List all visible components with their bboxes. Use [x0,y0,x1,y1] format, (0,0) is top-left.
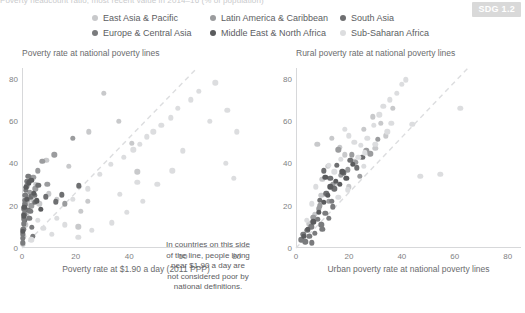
y-tick-label: 0 [288,244,292,253]
panel-right-title: Rural poverty rate at national poverty l… [296,48,455,58]
legend-item-lac[interactable]: Latin America & Caribbean [210,10,340,25]
legend-item-sa[interactable]: South Asia [340,10,460,25]
y-tick-label: 40 [9,159,18,168]
y-tick-label: 0 [14,244,18,253]
panel-left-title: Poverty rate at national poverty lines [22,48,160,58]
legend-marker-mena-icon [210,30,216,36]
identity-reference-line-right [296,68,521,248]
panel-left: Poverty rate at national poverty lines P… [0,48,270,303]
legend-item-eca[interactable]: Europe & Central Asia [92,25,210,40]
legend-item-mena[interactable]: Middle East & North Africa [210,25,340,40]
y-tick-label: 60 [9,116,18,125]
x-tick-label: 0 [20,252,24,261]
legend-marker-ssa-icon [340,30,346,36]
y-tick-label: 40 [283,159,292,168]
legend-label-eca: Europe & Central Asia [103,28,192,38]
chart-legend: East Asia & PacificLatin America & Carib… [92,10,460,40]
sdg-badge: SDG 1.2 [472,2,521,17]
legend-marker-eap-icon [92,15,98,21]
legend-item-eap[interactable]: East Asia & Pacific [92,10,210,25]
scatter-plot-right: Urban poverty rate at national poverty l… [296,68,521,248]
legend-label-mena: Middle East & North Africa [221,28,326,38]
x-tick-label: 80 [503,252,512,261]
identity-reference-line-left [22,68,250,248]
legend-marker-sa-icon [340,15,346,21]
panel-right: Rural poverty rate at national poverty l… [272,48,525,303]
legend-item-ssa[interactable]: Sub-Saharan Africa [340,25,460,40]
figure-caption: Poverty headcount ratio, most recent val… [0,0,470,5]
y-tick-label: 20 [9,201,18,210]
x-tick-label: 60 [450,252,459,261]
legend-label-lac: Latin America & Caribbean [221,13,328,23]
legend-label-eap: East Asia & Pacific [103,13,178,23]
legend-label-ssa: Sub-Saharan Africa [351,28,429,38]
x-axis-title-right: Urban poverty rate at national poverty l… [327,264,489,274]
x-tick-label: 40 [125,252,134,261]
x-tick-label: 0 [294,252,298,261]
x-tick-label: 20 [71,252,80,261]
legend-label-sa: South Asia [351,13,394,23]
x-tick-label: 20 [344,252,353,261]
y-tick-label: 80 [9,74,18,83]
legend-marker-eca-icon [92,30,98,36]
legend-marker-lac-icon [210,15,216,21]
y-tick-label: 20 [283,201,292,210]
y-tick-label: 60 [283,116,292,125]
scatter-plot-left: Poverty rate at $1.90 a day (2011 PPP) 0… [22,68,250,248]
annotation-left: In countries on this side of the line, p… [148,240,268,293]
sdg-poverty-scatter-figure: Poverty headcount ratio, most recent val… [0,0,525,313]
x-tick-label: 40 [397,252,406,261]
y-tick-label: 80 [283,74,292,83]
